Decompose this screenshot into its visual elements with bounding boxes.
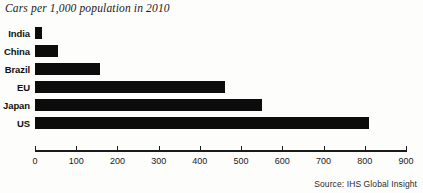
bar-wrapper [35, 63, 100, 75]
x-axis-tick [241, 146, 242, 152]
x-axis-tick [159, 146, 160, 152]
bar-china [35, 45, 58, 57]
bar-wrapper [35, 27, 42, 39]
plot-area: IndiaChinaBrazilEUJapanUS [0, 22, 423, 150]
bar-row: EU [0, 81, 423, 93]
bar-row: US [0, 117, 423, 129]
x-axis-tick-label: 100 [69, 156, 84, 166]
category-label-japan: Japan [0, 100, 30, 111]
x-axis: 0100200300400500600700800900 [0, 150, 423, 180]
bar-japan [35, 99, 262, 111]
x-axis-tick-label: 200 [110, 156, 125, 166]
x-axis-tick-label: 600 [275, 156, 290, 166]
x-axis-tick-label: 900 [398, 156, 413, 166]
bar-us [35, 117, 369, 129]
bar-india [35, 27, 42, 39]
bar-row: Japan [0, 99, 423, 111]
x-axis-tick-label: 800 [357, 156, 372, 166]
source-note: Source: IHS Global Insight [314, 179, 417, 189]
x-axis-tick [200, 146, 201, 152]
x-axis-tick [406, 146, 407, 152]
bar-row: China [0, 45, 423, 57]
x-axis-tick-label: 0 [32, 156, 37, 166]
x-axis-tick [76, 146, 77, 152]
x-axis-tick [35, 146, 36, 152]
category-label-china: China [0, 46, 30, 57]
bar-wrapper [35, 117, 369, 129]
bar-wrapper [35, 45, 58, 57]
chart-title: Cars per 1,000 population in 2010 [5, 2, 170, 14]
bar-wrapper [35, 99, 262, 111]
x-axis-tick [117, 146, 118, 152]
bar-wrapper [35, 81, 225, 93]
x-axis-tick [282, 146, 283, 152]
category-label-india: India [0, 28, 30, 39]
bar-row: India [0, 27, 423, 39]
x-axis-tick-label: 700 [316, 156, 331, 166]
chart-figure: Cars per 1,000 population in 2010 IndiaC… [0, 0, 423, 193]
bar-eu [35, 81, 225, 93]
category-label-brazil: Brazil [0, 64, 30, 75]
category-label-us: US [0, 118, 30, 129]
x-axis-tick [324, 146, 325, 152]
category-label-eu: EU [0, 82, 30, 93]
bar-row: Brazil [0, 63, 423, 75]
x-axis-line [35, 150, 406, 152]
x-axis-tick [365, 146, 366, 152]
x-axis-tick-label: 500 [234, 156, 249, 166]
x-axis-tick-label: 400 [192, 156, 207, 166]
x-axis-tick-label: 300 [151, 156, 166, 166]
bar-brazil [35, 63, 100, 75]
